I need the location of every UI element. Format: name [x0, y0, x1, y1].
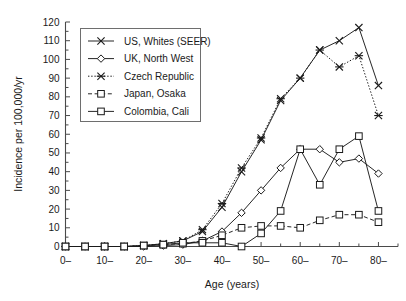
- marker-square: [219, 232, 226, 239]
- marker-diamond: [375, 170, 382, 177]
- x-tick-label: 80–: [370, 255, 387, 266]
- legend-label: UK, North West: [124, 53, 193, 64]
- chart-legend: US, Whites (SEER)UK, North WestCzech Rep…: [81, 29, 211, 122]
- marker-square: [160, 241, 167, 248]
- x-tick-label: 0–: [60, 255, 72, 266]
- y-tick-label: 60: [48, 129, 60, 140]
- x-axis: 0–10–20–30–40–50–60–70–80– Age (years): [60, 242, 398, 290]
- legend-label: Colombia, Cali: [124, 106, 189, 117]
- x-tick-label: 20–: [135, 255, 152, 266]
- marker-square: [316, 217, 323, 224]
- x-axis-title: Age (years): [205, 278, 259, 290]
- legend-label: US, Whites (SEER): [124, 36, 211, 47]
- marker-diamond: [316, 146, 323, 153]
- y-axis-tick-labels: 0102030405060708090100110120: [43, 17, 60, 253]
- x-tick-label: 30–: [175, 255, 192, 266]
- marker-square: [82, 243, 89, 250]
- y-tick-label: 0: [54, 241, 60, 252]
- y-tick-label: 120: [43, 17, 60, 28]
- y-tick-label: 50: [48, 147, 60, 158]
- marker-square: [98, 91, 105, 98]
- y-tick-label: 70: [48, 110, 60, 121]
- marker-square: [277, 208, 284, 215]
- y-axis-title: Incidence per 100,000/yr: [12, 76, 24, 192]
- marker-square: [356, 133, 363, 140]
- marker-square: [199, 239, 206, 246]
- marker-square: [238, 243, 245, 250]
- x-tick-label: 10–: [96, 255, 113, 266]
- marker-square: [316, 181, 323, 188]
- y-tick-label: 20: [48, 204, 60, 215]
- marker-square: [277, 223, 284, 230]
- marker-square: [336, 211, 343, 218]
- y-tick-label: 100: [43, 54, 60, 65]
- x-tick-label: 40–: [214, 255, 231, 266]
- x-axis-tick-labels: 0–10–20–30–40–50–60–70–80–: [60, 255, 387, 266]
- y-tick-label: 90: [48, 73, 60, 84]
- marker-square: [180, 239, 187, 246]
- x-tick-label: 70–: [331, 255, 348, 266]
- incidence-line-chart: 0102030405060708090100110120 Incidence p…: [0, 0, 406, 301]
- marker-square: [238, 224, 245, 231]
- marker-square: [375, 208, 382, 215]
- marker-square: [375, 219, 382, 226]
- chart-figure: 0102030405060708090100110120 Incidence p…: [0, 0, 406, 301]
- y-tick-label: 80: [48, 91, 60, 102]
- y-axis-ticks: [66, 22, 71, 247]
- y-tick-label: 30: [48, 185, 60, 196]
- marker-square: [258, 230, 265, 237]
- marker-square: [336, 146, 343, 153]
- x-tick-label: 50–: [253, 255, 270, 266]
- marker-square: [140, 242, 147, 249]
- marker-square: [258, 223, 265, 230]
- marker-diamond: [336, 159, 343, 166]
- marker-square: [101, 243, 108, 250]
- marker-square: [121, 243, 128, 250]
- x-tick-label: 60–: [292, 255, 309, 266]
- marker-square: [62, 243, 69, 250]
- y-tick-label: 110: [44, 35, 60, 46]
- marker-square: [297, 146, 304, 153]
- legend-label: Japan, Osaka: [124, 88, 186, 99]
- marker-square: [356, 211, 363, 218]
- legend-label: Czech Republic: [124, 71, 194, 82]
- marker-square: [98, 108, 105, 115]
- y-axis: 0102030405060708090100110120 Incidence p…: [12, 17, 70, 253]
- y-tick-label: 10: [48, 222, 60, 233]
- y-tick-label: 40: [48, 166, 60, 177]
- marker-square: [219, 239, 226, 246]
- marker-square: [297, 224, 304, 231]
